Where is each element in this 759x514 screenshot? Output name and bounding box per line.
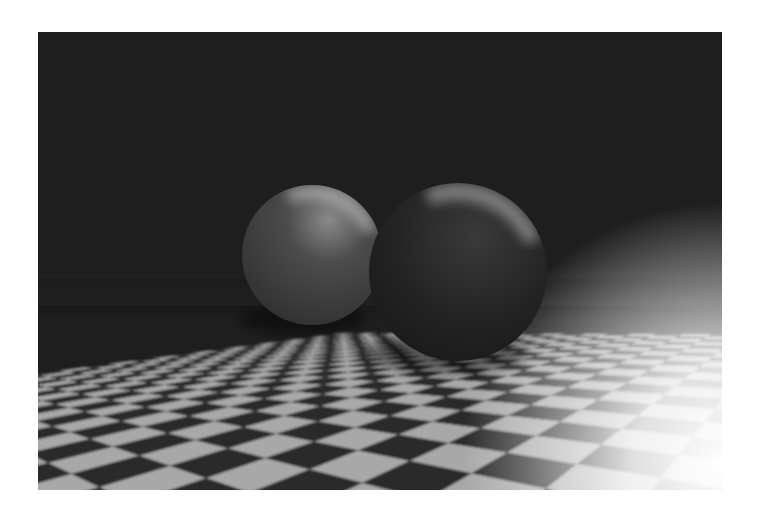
left-sphere bbox=[242, 185, 382, 325]
rendered-scene-image bbox=[38, 32, 722, 490]
scene-canvas bbox=[38, 32, 722, 490]
right-sphere bbox=[369, 183, 547, 361]
